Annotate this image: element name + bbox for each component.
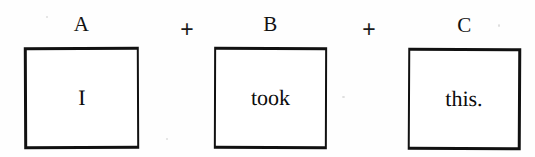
constituent-text-c: this. (445, 88, 482, 110)
plus-operator-2: + (358, 18, 380, 41)
scan-speck (498, 24, 500, 27)
constituent-text-b: took (251, 87, 290, 109)
constituent-box-a: I (24, 47, 139, 150)
constituent-group-a: A I (24, 14, 139, 149)
constituent-group-b: B took (214, 14, 327, 149)
plus-operator-1: + (176, 18, 198, 41)
constituent-label-b: B (214, 14, 327, 35)
scan-speck (166, 138, 168, 140)
scan-speck (342, 96, 345, 98)
constituent-label-a: A (24, 14, 139, 35)
formula-diagram: A I + B took + C this. (0, 0, 535, 157)
scan-speck (46, 16, 48, 18)
constituent-group-c: C this. (408, 15, 521, 150)
constituent-label-c: C (408, 15, 521, 36)
constituent-box-b: took (214, 47, 327, 149)
constituent-box-c: this. (408, 48, 522, 151)
constituent-text-a: I (78, 87, 85, 109)
